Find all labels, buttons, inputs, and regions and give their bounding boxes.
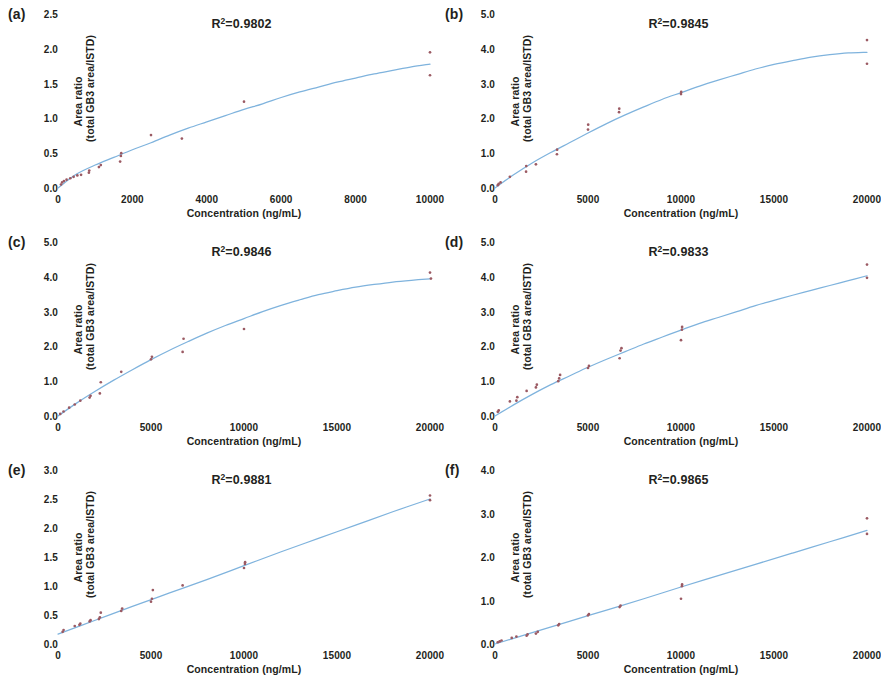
data-point (866, 517, 869, 520)
data-point (244, 561, 247, 564)
data-point (866, 533, 869, 536)
chart-panel-d: (d)R2=0.9833Area ratio(total GB3 area/IS… (437, 228, 874, 456)
data-point (556, 148, 559, 151)
data-points (496, 517, 868, 644)
data-point (120, 152, 123, 155)
data-point (62, 629, 65, 632)
chart-panel-e: (e)R2=0.9881Area ratio(total GB3 area/IS… (0, 456, 437, 684)
data-point (525, 165, 528, 168)
data-point (68, 406, 71, 409)
data-point (556, 153, 559, 156)
data-point (151, 597, 154, 600)
data-point (588, 613, 591, 616)
data-point (79, 399, 82, 402)
data-point (88, 169, 91, 172)
data-point (429, 499, 432, 502)
data-point (89, 394, 92, 397)
data-point (73, 403, 76, 406)
data-point (79, 622, 82, 625)
data-point (587, 123, 590, 126)
data-point (587, 128, 590, 131)
data-point (866, 62, 869, 65)
data-point (526, 633, 529, 636)
data-point (618, 111, 621, 114)
data-point (151, 355, 154, 358)
data-point (243, 567, 246, 570)
data-point (65, 178, 68, 181)
data-point (680, 339, 683, 342)
data-point (63, 180, 66, 183)
fitted-curve (495, 276, 867, 416)
data-point (866, 276, 869, 279)
data-point (429, 271, 432, 274)
plot-area (0, 456, 437, 684)
data-point (535, 163, 538, 166)
data-point (59, 413, 62, 416)
data-point (680, 91, 683, 94)
data-point (497, 409, 500, 412)
fitted-curve (495, 530, 867, 644)
data-point (536, 630, 539, 633)
data-point (150, 358, 153, 361)
data-point (150, 600, 153, 603)
data-point (243, 328, 246, 331)
data-point (619, 604, 622, 607)
chart-panel-f: (f)R2=0.9865Area ratio(total GB3 area/IS… (437, 456, 874, 684)
data-point (99, 616, 102, 619)
data-point (680, 597, 683, 600)
data-point (72, 176, 75, 179)
data-point (120, 610, 123, 613)
data-point (516, 396, 519, 399)
data-point (98, 166, 101, 169)
data-point (681, 583, 684, 586)
data-point (62, 410, 65, 413)
plot-area (437, 456, 874, 684)
data-point (99, 381, 102, 384)
data-point (525, 390, 528, 393)
data-point (619, 349, 622, 352)
data-point (681, 328, 684, 331)
plot-area (0, 228, 437, 456)
data-point (618, 107, 621, 110)
data-point (515, 399, 518, 402)
data-point (620, 347, 623, 350)
data-point (866, 263, 869, 266)
chart-panel-a: (a)R2=0.9802Area ratio(total GB3 area/IS… (0, 0, 437, 228)
data-point (535, 386, 538, 389)
data-point (152, 589, 155, 592)
fitted-curve (495, 52, 867, 188)
data-point (510, 637, 513, 640)
data-point (866, 39, 869, 42)
data-point (99, 164, 102, 167)
data-point (558, 377, 561, 380)
data-point (73, 625, 76, 628)
data-point (76, 174, 79, 177)
data-point (182, 337, 185, 340)
data-point (89, 619, 92, 622)
data-points (496, 263, 868, 413)
data-point (536, 383, 539, 386)
data-point (500, 639, 503, 642)
plot-area (437, 228, 874, 456)
data-point (99, 392, 102, 395)
fitted-curve (58, 64, 430, 188)
data-point (243, 100, 246, 103)
fitted-curve (58, 279, 430, 416)
data-point (99, 611, 102, 614)
data-point (120, 155, 123, 158)
plot-area (437, 0, 874, 228)
data-point (120, 370, 123, 373)
data-point (558, 623, 561, 626)
data-point (430, 277, 433, 280)
data-point (181, 137, 184, 140)
data-point (509, 400, 512, 403)
data-point (588, 365, 591, 368)
data-points (60, 51, 432, 186)
chart-panel-c: (c)R2=0.9846Area ratio(total GB3 area/IS… (0, 228, 437, 456)
plot-area (0, 0, 437, 228)
data-point (150, 134, 153, 137)
data-point (80, 173, 83, 176)
data-point (429, 494, 432, 497)
fitted-curve (58, 499, 430, 634)
data-point (509, 176, 512, 179)
